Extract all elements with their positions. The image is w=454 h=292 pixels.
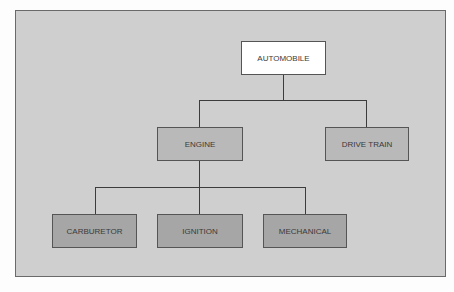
connector-level1-horizontal — [199, 100, 367, 101]
connector-level2-horizontal — [95, 187, 306, 188]
connector-root-down — [283, 74, 284, 100]
node-mechanical: MECHANICAL — [263, 214, 347, 248]
connector-carburetor-up — [95, 187, 96, 214]
node-label: CARBURETOR — [67, 227, 123, 236]
node-drive-train: DRIVE TRAIN — [325, 127, 409, 161]
node-engine: ENGINE — [157, 127, 243, 161]
node-label: DRIVE TRAIN — [342, 140, 393, 149]
node-label: ENGINE — [185, 140, 216, 149]
node-ignition: IGNITION — [157, 214, 243, 248]
node-label: AUTOMOBILE — [257, 54, 309, 63]
node-carburetor: CARBURETOR — [52, 214, 137, 248]
node-label: IGNITION — [182, 227, 218, 236]
node-label: MECHANICAL — [279, 227, 331, 236]
connector-mechanical-up — [305, 187, 306, 214]
node-automobile: AUTOMOBILE — [241, 41, 326, 75]
connector-drivetrain-up — [366, 100, 367, 127]
connector-engine-up — [199, 100, 200, 127]
